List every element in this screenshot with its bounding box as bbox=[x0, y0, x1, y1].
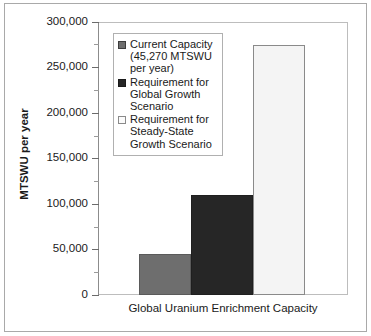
legend-entry-global-growth: Requirement for Global Growth Scenario bbox=[118, 76, 218, 113]
y-axis-line bbox=[98, 22, 99, 296]
bar-global-growth-requirement bbox=[191, 195, 253, 295]
bar-current-capacity bbox=[139, 254, 191, 295]
y-tick-minor-75000 bbox=[94, 227, 99, 228]
y-tick-250000 bbox=[92, 67, 99, 68]
y-tick-label-200000: 200,000 bbox=[46, 107, 88, 119]
y-tick-50000 bbox=[92, 249, 99, 250]
y-tick-minor-175000 bbox=[94, 136, 99, 137]
y-tick-100000 bbox=[92, 204, 99, 205]
y-tick-minor-125000 bbox=[94, 181, 99, 182]
y-tick-150000 bbox=[92, 158, 99, 159]
y-tick-minor-275000 bbox=[94, 44, 99, 45]
y-tick-label-150000: 150,000 bbox=[46, 152, 88, 164]
chart-legend: Current Capacity (45,270 MTSWU per year)… bbox=[113, 33, 223, 156]
y-tick-minor-25000 bbox=[94, 272, 99, 273]
legend-swatch-steady-state bbox=[118, 116, 126, 124]
legend-swatch-current-capacity bbox=[118, 41, 126, 49]
chart-figure: MTSWU per year 300,000 250,000 200,000 1… bbox=[0, 0, 371, 336]
y-axis-title: MTSWU per year bbox=[18, 64, 30, 244]
y-tick-0 bbox=[92, 295, 99, 296]
legend-label-steady-state: Requirement for Steady-State Growth Scen… bbox=[130, 113, 212, 150]
legend-label-global-growth: Requirement for Global Growth Scenario bbox=[130, 76, 209, 113]
y-tick-label-0: 0 bbox=[82, 289, 88, 301]
legend-entry-current-capacity: Current Capacity (45,270 MTSWU per year) bbox=[118, 38, 218, 75]
y-tick-200000 bbox=[92, 113, 99, 114]
y-tick-label-50000: 50,000 bbox=[53, 243, 88, 255]
y-tick-label-300000: 300,000 bbox=[46, 16, 88, 28]
y-tick-label-250000: 250,000 bbox=[46, 61, 88, 73]
legend-swatch-global-growth bbox=[118, 79, 126, 87]
bar-steady-state-requirement bbox=[253, 45, 305, 295]
y-tick-300000 bbox=[92, 22, 99, 23]
legend-entry-steady-state: Requirement for Steady-State Growth Scen… bbox=[118, 113, 218, 150]
y-tick-minor-225000 bbox=[94, 90, 99, 91]
legend-label-current-capacity: Current Capacity (45,270 MTSWU per year) bbox=[130, 38, 213, 75]
x-axis-title: Global Uranium Enrichment Capacity bbox=[98, 302, 348, 314]
y-tick-label-100000: 100,000 bbox=[46, 198, 88, 210]
